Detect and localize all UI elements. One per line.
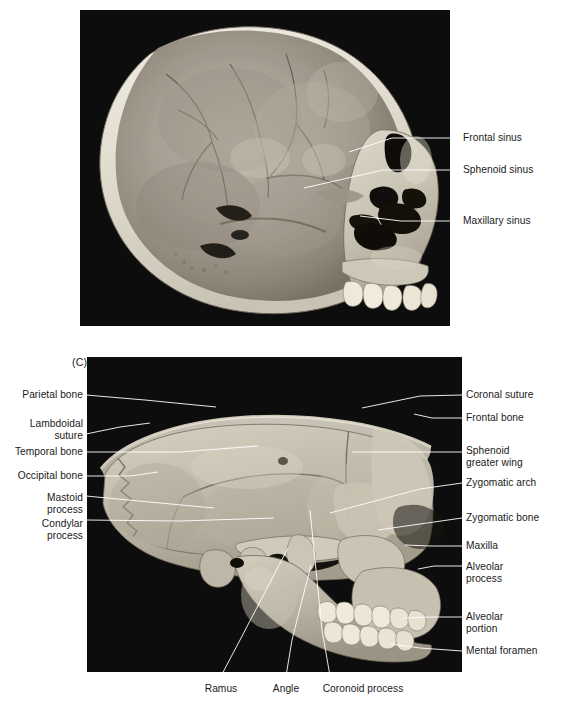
- label-parietal-bone: Parietal bone: [5, 389, 83, 401]
- label-angle: Angle: [265, 683, 307, 695]
- label-coronoid-process: Coronoid process: [310, 683, 416, 695]
- label-maxillary-sinus: Maxillary sinus: [463, 215, 531, 227]
- mastoid-process-region: [200, 550, 235, 587]
- label-mastoid-process: Mastoid process: [5, 492, 83, 515]
- label-frontal-sinus: Frontal sinus: [463, 132, 522, 144]
- panel-b-photo-midsagittal-skull: [80, 10, 450, 326]
- label-lambdoidal-suture: Lambdoidal suture: [5, 418, 83, 441]
- label-coronal-suture: Coronal suture: [466, 389, 534, 401]
- panel-c-photo-lateral-skull: [87, 357, 462, 672]
- label-sphenoid-greater-wing: Sphenoid greater wing: [466, 445, 523, 468]
- label-zygomatic-bone: Zygomatic bone: [466, 512, 539, 524]
- midsagittal-skull-illustration: [80, 10, 450, 326]
- external-acoustic-meatus: [230, 558, 244, 568]
- label-temporal-bone: Temporal bone: [5, 446, 83, 458]
- label-zygomatic-arch: Zygomatic arch: [466, 477, 536, 489]
- label-frontal-bone: Frontal bone: [466, 412, 524, 424]
- label-alveolar-portion: Alveolar portion: [466, 611, 503, 634]
- label-sphenoid-sinus: Sphenoid sinus: [463, 164, 533, 176]
- lateral-skull-illustration: [87, 357, 462, 672]
- label-condylar-process: Condylar process: [5, 518, 83, 541]
- label-ramus: Ramus: [198, 683, 244, 695]
- label-alveolar-process: Alveolar process: [466, 561, 503, 584]
- label-occipital-bone: Occipital bone: [5, 470, 83, 482]
- anatomy-figure: (B): [0, 0, 572, 712]
- label-mental-foramen: Mental foramen: [466, 645, 537, 657]
- panel-c-tag: (C): [72, 356, 87, 368]
- label-maxilla: Maxilla: [466, 540, 498, 552]
